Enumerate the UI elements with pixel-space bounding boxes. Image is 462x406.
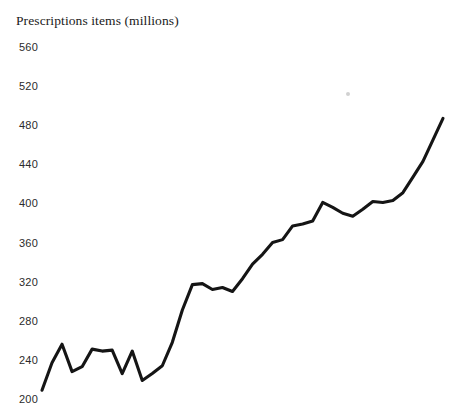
line-series-svg <box>0 0 462 406</box>
chart-page: Prescriptions items (millions) 560520480… <box>0 0 462 406</box>
line-series-prescription-items <box>42 118 443 390</box>
artifact-speck-icon <box>346 92 350 96</box>
plot-area <box>0 0 462 406</box>
